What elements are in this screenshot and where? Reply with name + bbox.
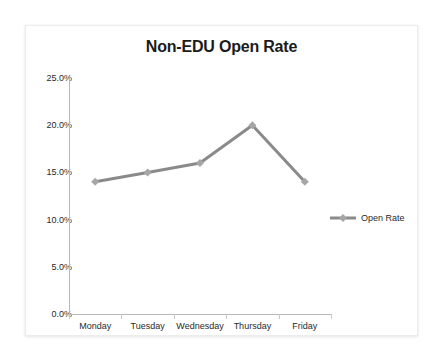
series-open-rate [26, 26, 419, 337]
data-point-monday [91, 178, 99, 186]
legend-marker-icon [329, 213, 357, 223]
series-line [95, 125, 305, 182]
data-point-tuesday [144, 168, 152, 176]
chart-card: Non-EDU Open Rate 25.0%20.0%15.0%10.0%5.… [25, 25, 418, 336]
legend-label-open-rate: Open Rate [361, 213, 405, 223]
chart-legend: Open Rate [329, 213, 405, 223]
plot-area: 25.0%20.0%15.0%10.0%5.0%0.0% MondayTuesd… [26, 26, 419, 337]
